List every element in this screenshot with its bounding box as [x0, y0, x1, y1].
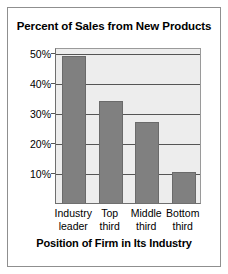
x-category-line-1: Top [101, 207, 118, 219]
y-axis-tick-label: 20% [17, 138, 51, 150]
bar [135, 122, 159, 203]
chart-title: Percent of Sales from New Products [0, 20, 228, 32]
y-axis-tick-label: 10% [17, 168, 51, 180]
bar [62, 56, 86, 203]
y-axis: 10%20%30%40%50% [12, 48, 51, 205]
y-axis-tick-label: 50% [17, 48, 51, 60]
x-category-line-1: Middle [131, 207, 162, 219]
chart-figure: Percent of Sales from New Products 10%20… [0, 0, 228, 274]
gridline-50pct [56, 54, 200, 55]
x-axis-title: Position of Firm in Its Industry [0, 237, 228, 249]
bar [99, 101, 123, 203]
plot-inner [56, 49, 200, 203]
x-axis-category-label: Bottomthird [161, 207, 206, 232]
plot-area [55, 48, 201, 204]
x-category-line-1: Industry [55, 207, 92, 219]
x-category-line-1: Bottom [166, 207, 199, 219]
y-axis-tick-label: 40% [17, 78, 51, 90]
y-axis-tick-label: 30% [17, 108, 51, 120]
x-category-line-2: third [161, 220, 206, 233]
x-axis-tick-labels: IndustryleaderTopthirdMiddlethirdBottomt… [55, 207, 201, 235]
bar [172, 172, 196, 204]
